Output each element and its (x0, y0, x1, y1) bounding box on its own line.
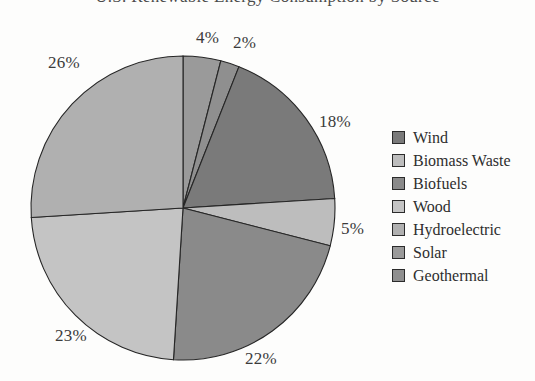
pie-label-biomass-waste: 5% (341, 219, 364, 239)
pie-label-wind: 18% (319, 112, 351, 132)
pie-label-hydroelectric: 26% (48, 53, 80, 73)
pie-label-biofuels: 22% (245, 349, 277, 369)
legend-item-wind[interactable]: Wind (392, 126, 532, 149)
legend-item-label: Hydroelectric (413, 222, 501, 238)
pie-label-solar: 4% (196, 28, 219, 48)
legend-item-label: Biofuels (413, 176, 467, 192)
legend-swatch-icon (392, 200, 405, 213)
legend-swatch-icon (392, 177, 405, 190)
legend-item-biomass-waste[interactable]: Biomass Waste (392, 149, 532, 172)
pie-label-geothermal: 2% (233, 33, 256, 53)
legend-item-solar[interactable]: Solar (392, 241, 532, 264)
pie-slice-hydroelectric[interactable] (31, 56, 183, 218)
pie-chart-figure: U.S. Renewable Energy Consumption by Sou… (0, 0, 535, 381)
legend: WindBiomass WasteBiofuelsWoodHydroelectr… (392, 126, 532, 287)
legend-item-wood[interactable]: Wood (392, 195, 532, 218)
legend-item-biofuels[interactable]: Biofuels (392, 172, 532, 195)
legend-swatch-icon (392, 154, 405, 167)
legend-swatch-icon (392, 269, 405, 282)
legend-item-geothermal[interactable]: Geothermal (392, 264, 532, 287)
legend-swatch-icon (392, 246, 405, 259)
legend-swatch-icon (392, 131, 405, 144)
legend-item-label: Wind (413, 130, 448, 146)
legend-item-label: Wood (413, 199, 451, 215)
legend-swatch-icon (392, 223, 405, 236)
legend-item-label: Solar (413, 245, 447, 261)
legend-item-label: Biomass Waste (413, 153, 511, 169)
legend-item-label: Geothermal (413, 268, 489, 284)
legend-item-hydroelectric[interactable]: Hydroelectric (392, 218, 532, 241)
pie-label-wood: 23% (55, 326, 87, 346)
pie-slice-group (31, 56, 335, 360)
